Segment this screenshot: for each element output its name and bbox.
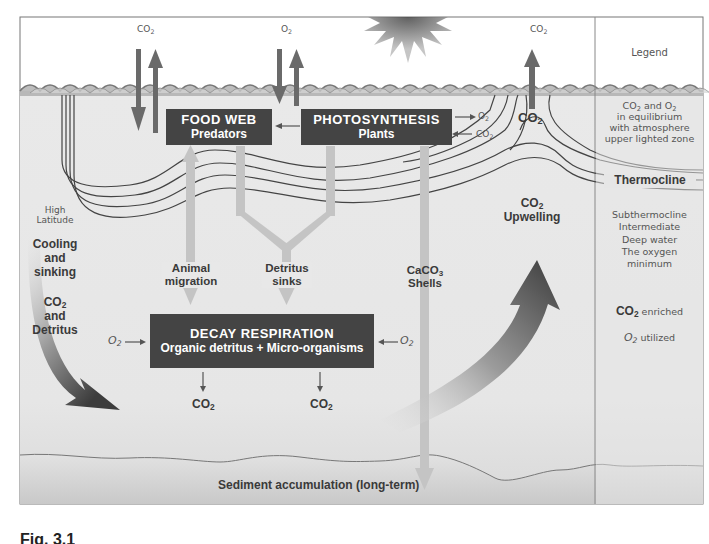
figure-caption: Fig. 3.1 [20, 531, 75, 544]
legend-title: Legend [596, 47, 703, 59]
decay-o2-input-right: O2 [400, 335, 414, 348]
food-web-box: FOOD WEB Predators [166, 109, 272, 145]
legend-thermocline: Thermocline [604, 174, 696, 188]
legend-co2-enriched: CO2 enriched [596, 305, 703, 319]
legend-o2-utilized: O2 utilized [596, 332, 703, 345]
atmosphere-co2-left-label: CO2 [137, 24, 154, 34]
detritus-sinks-label: Detritus sinks [262, 262, 312, 288]
legend-upper-zone: CO2 and O2 in equilibrium with atmospher… [596, 101, 703, 145]
photosynthesis-box: PHOTOSYNTHESIS Plants [301, 109, 452, 145]
co2-detritus-label: CO2 and Detritus [28, 296, 82, 337]
decay-respiration-box: DECAY RESPIRATION Organic detritus + Mic… [150, 314, 374, 368]
animal-migration-label: Animal migration [162, 262, 220, 288]
surface-co2-label: CO2 [518, 111, 543, 126]
diagram-artwork [0, 0, 709, 544]
legend-deep-zone: Subthermocline Intermediate Deep water T… [596, 209, 703, 271]
cooling-sinking-label: Cooling and sinking [28, 238, 82, 279]
photosynthesis-co2-input: CO2 [476, 129, 493, 139]
caco3-shells-label: CaCO3 Shells [404, 264, 446, 290]
sediment-label: Sediment accumulation (long-term) [218, 479, 419, 493]
atmosphere-co2-right-label: CO2 [530, 24, 547, 34]
decay-o2-input-left: O2 [108, 335, 122, 348]
decay-co2-output-right: CO2 [310, 398, 333, 412]
decay-co2-output-left: CO2 [192, 398, 215, 412]
photosynthesis-o2-output: O2 [478, 111, 489, 121]
upwelling-label: CO2 Upwelling [502, 197, 562, 225]
atmosphere-o2-label: O2 [281, 24, 292, 34]
ocean-cycle-diagram: CO2 O2 CO2 Legend CO2 and O2 in equilibr… [0, 0, 709, 544]
high-latitude-label: High Latitude [28, 205, 82, 226]
